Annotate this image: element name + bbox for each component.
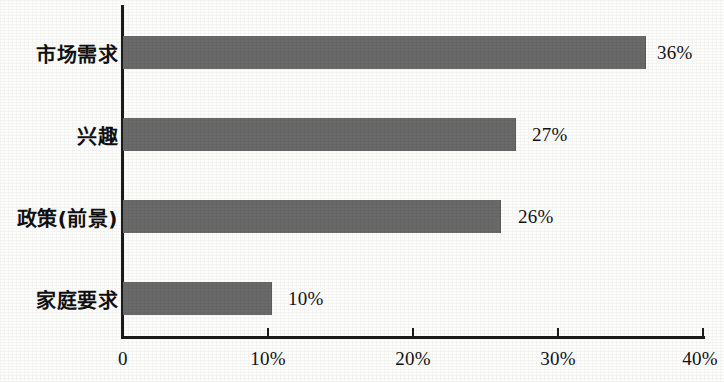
bar-interest (123, 118, 516, 151)
category-label: 政策(前景) (17, 202, 118, 231)
bar-chart: 市场需求 36% 兴趣 27% 政策(前景) 26% 家庭要求 10% 0 10… (0, 0, 724, 382)
bar-value-label: 36% (657, 42, 693, 64)
bar-market-demand (123, 36, 646, 69)
x-axis-tick-label: 0 (118, 348, 128, 370)
bar-value-label: 10% (288, 288, 324, 310)
category-label: 家庭要求 (36, 284, 118, 313)
x-axis-tick-label: 40% (682, 348, 718, 370)
x-axis-tick (267, 328, 269, 337)
category-label: 兴趣 (77, 120, 118, 149)
bar-row: 市场需求 36% (0, 36, 724, 69)
x-axis-tick (702, 328, 704, 337)
x-axis-tick (557, 328, 559, 337)
bar-row: 家庭要求 10% (0, 282, 724, 315)
bar-policy-prospect (123, 200, 501, 233)
bar-value-label: 26% (518, 206, 554, 228)
category-label: 市场需求 (36, 38, 118, 67)
x-axis-tick-label: 30% (540, 348, 576, 370)
bar-value-label: 27% (532, 124, 568, 146)
x-axis-tick (412, 328, 414, 337)
bar-family-requirement (123, 282, 272, 315)
x-axis-tick-label: 20% (395, 348, 431, 370)
bar-row: 兴趣 27% (0, 118, 724, 151)
x-axis-tick-label: 10% (250, 348, 286, 370)
bar-row: 政策(前景) 26% (0, 200, 724, 233)
plot-area: 市场需求 36% 兴趣 27% 政策(前景) 26% 家庭要求 10% (0, 0, 724, 382)
